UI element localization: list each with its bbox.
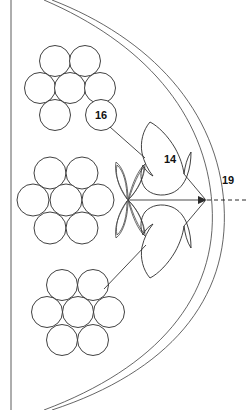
bubble	[63, 297, 94, 328]
bubble	[66, 212, 98, 244]
bubble	[78, 325, 109, 356]
bubble	[78, 270, 109, 301]
figure-drawing-canvas: 16	[0, 0, 249, 410]
bubble	[40, 46, 71, 77]
bubble	[34, 212, 66, 244]
label-14: 14	[164, 153, 177, 165]
bubble	[32, 297, 63, 328]
label-16: 16	[95, 109, 107, 121]
bubble	[17, 184, 49, 216]
bubble	[82, 184, 114, 216]
bubble	[40, 100, 71, 131]
bubble	[66, 157, 98, 189]
bubble	[47, 325, 78, 356]
figure-root: 16	[0, 0, 249, 410]
bubble	[70, 46, 101, 77]
bubble	[50, 184, 82, 216]
bubble	[47, 270, 78, 301]
bubble	[25, 73, 56, 104]
bubble	[34, 157, 66, 189]
bubble	[94, 297, 125, 328]
label-19: 19	[222, 174, 234, 186]
bubble	[85, 73, 116, 104]
bubble	[55, 73, 86, 104]
